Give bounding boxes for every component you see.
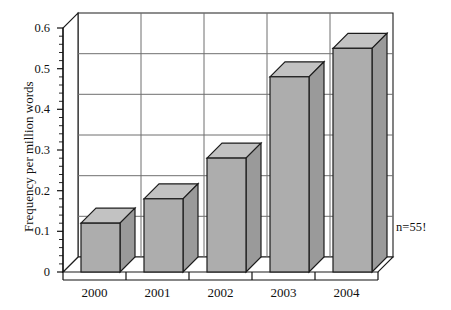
y-axis-title: Frequency per million words — [22, 81, 35, 232]
bar-2003-front — [270, 77, 309, 272]
plot-left-wall — [63, 13, 78, 272]
sample-size-annotation: n=55! — [396, 221, 426, 234]
bar-2003 — [270, 62, 324, 272]
bar-2004-side — [372, 33, 387, 272]
bar-2001-front — [144, 199, 183, 272]
x-tick-label-2004: 2004 — [317, 286, 377, 299]
y-tick-label-0.6: 0.6 — [16, 22, 50, 35]
x-tick-label-2000: 2000 — [65, 286, 125, 299]
bar-2004-front — [333, 48, 372, 272]
bar-2003-side — [309, 62, 324, 272]
bar-2002-side — [246, 143, 261, 272]
y-tick-label-0: 0 — [16, 266, 50, 279]
y-tick-label-0.5: 0.5 — [16, 63, 50, 76]
x-tick-label-2003: 2003 — [254, 286, 314, 299]
bar-2000 — [81, 208, 135, 272]
bar-chart-figure: 0.6 0.5 0.4 0.3 0.2 0.1 0 Frequency per … — [0, 0, 451, 310]
x-tick-label-2002: 2002 — [191, 286, 251, 299]
bar-2001 — [144, 184, 198, 272]
bar-2002 — [207, 143, 261, 272]
bar-2000-front — [81, 223, 120, 272]
bar-2004 — [333, 33, 387, 272]
chart-canvas — [0, 0, 451, 310]
x-tick-label-2001: 2001 — [128, 286, 188, 299]
x-axis-ticks — [63, 272, 378, 280]
bar-2001-side — [183, 184, 198, 272]
bar-2002-front — [207, 158, 246, 272]
y-axis-major-ticks — [57, 28, 63, 272]
